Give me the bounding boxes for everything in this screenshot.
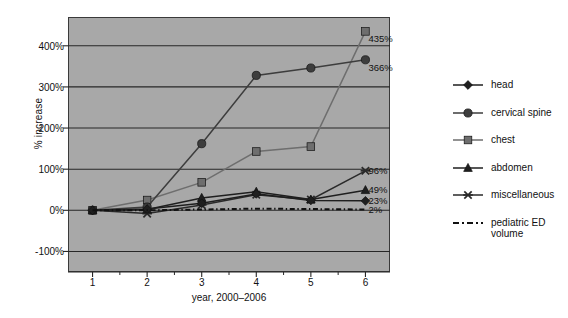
dashdot-line-icon [452,216,484,230]
square-marker-icon [452,133,484,147]
triangle-marker-icon [452,161,484,175]
circle-marker-icon [452,106,484,120]
series-chest [89,28,369,215]
data-label-abdomen: 49% [368,184,387,195]
data-label-cervical-spine: 366% [368,62,392,73]
x-axis-ticks [68,272,390,277]
legend-label: abdomen [491,161,533,174]
legend-item-miscellaneous[interactable]: miscellaneous [452,188,568,202]
legend-label: head [491,78,513,91]
legend-item-cervical-spine[interactable]: cervical spine [452,106,568,120]
legend-label: chest [491,133,515,146]
legend-item-chest[interactable]: chest [452,133,568,147]
legend-label: cervical spine [491,106,552,119]
legend-item-head[interactable]: head [452,78,568,92]
chart-container: % increase 400% 300% 200% 100% 0% -100% … [0,0,568,318]
legend-item-abdomen[interactable]: abdomen [452,161,568,175]
data-label-miscellaneous: 96% [368,165,387,176]
legend: head cervical spine chest abdomen miscel… [452,78,568,243]
data-label-pediatric-ed-volume: 2% [368,204,382,215]
gridlines [63,46,390,252]
legend-label: miscellaneous [491,188,554,201]
legend-label: pediatric ED volume [491,216,568,240]
diamond-marker-icon [452,78,484,92]
legend-item-pediatric-ed-volume[interactable]: pediatric ED volume [452,216,568,230]
x-marker-icon [452,188,484,202]
data-label-chest: 435% [368,33,392,44]
